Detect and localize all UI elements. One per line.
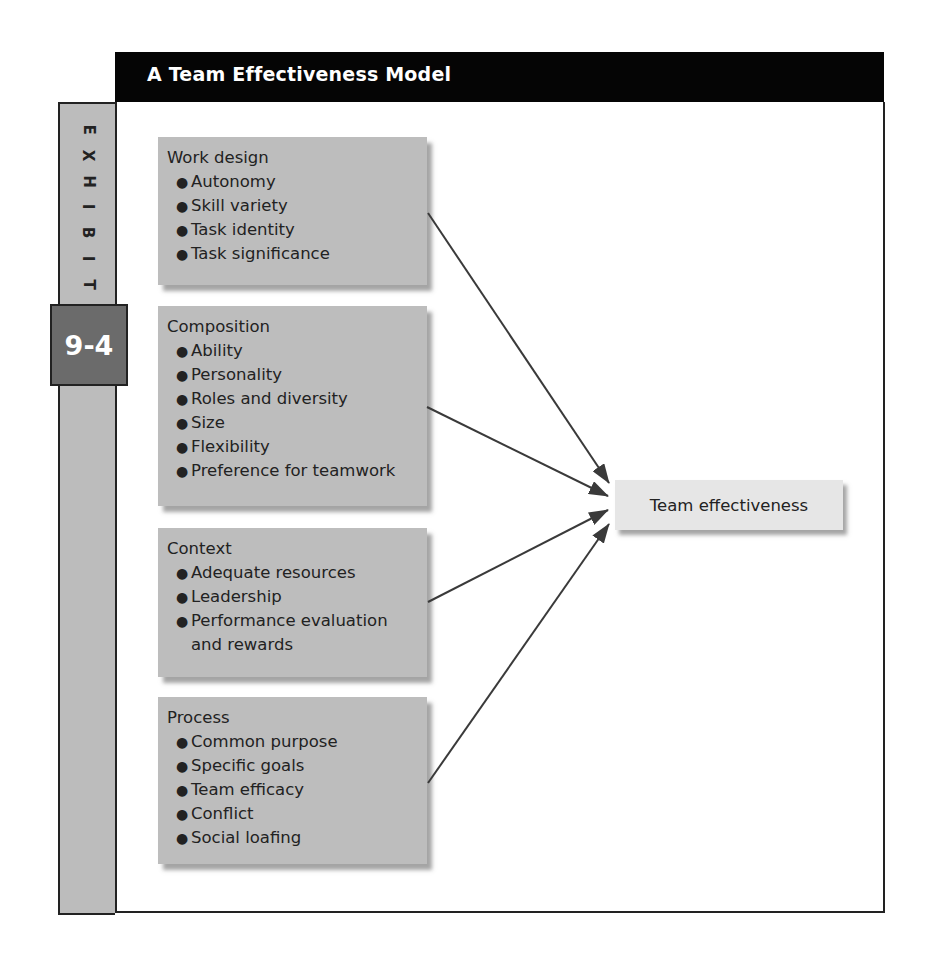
factor-item: ●Adequate resources (167, 561, 417, 585)
bullet-icon: ● (176, 170, 188, 194)
exhibit-letter: X (80, 150, 95, 162)
factor-list: ●Common purpose ●Specific goals ●Team ef… (167, 730, 417, 850)
factor-item: ●Team efficacy (167, 778, 417, 802)
outcome-box-team-effectiveness: Team effectiveness (615, 480, 843, 530)
factor-item: ●Personality (167, 363, 417, 387)
exhibit-letter: B (81, 227, 96, 238)
bullet-icon: ● (176, 609, 188, 633)
bullet-icon: ● (176, 778, 188, 802)
factor-item: ●Skill variety (167, 194, 417, 218)
bullet-icon: ● (176, 411, 188, 435)
factor-box-work-design: Work design ●Autonomy ●Skill variety ●Ta… (158, 137, 427, 285)
factor-item: ●Ability (167, 339, 417, 363)
factor-item: ●Preference for teamwork (167, 459, 417, 483)
exhibit-side-strip: E X H I B I T (58, 102, 115, 915)
bullet-icon: ● (176, 194, 188, 218)
bullet-icon: ● (176, 561, 188, 585)
bullet-icon: ● (176, 242, 188, 266)
bullet-icon: ● (176, 339, 188, 363)
exhibit-letter: H (81, 175, 96, 188)
bullet-icon: ● (176, 730, 188, 754)
factor-item: ●Autonomy (167, 170, 417, 194)
factor-item: ●Flexibility (167, 435, 417, 459)
factor-box-process: Process ●Common purpose ●Specific goals … (158, 697, 427, 864)
exhibit-number: 9-4 (65, 330, 114, 361)
factor-item: ●Conflict (167, 802, 417, 826)
exhibit-letter: T (80, 279, 95, 289)
bullet-icon: ● (176, 802, 188, 826)
factor-item: ●Task significance (167, 242, 417, 266)
factor-list: ●Autonomy ●Skill variety ●Task identity … (167, 170, 417, 266)
header-bar: A Team Effectiveness Model (115, 52, 884, 102)
factor-item: ●Roles and diversity (167, 387, 417, 411)
factor-item: ●Performance evaluation and rewards (167, 609, 417, 657)
factor-item: ●Leadership (167, 585, 417, 609)
factor-title: Process (167, 706, 417, 730)
bullet-icon: ● (176, 435, 188, 459)
bullet-icon: ● (176, 218, 188, 242)
factor-box-context: Context ●Adequate resources ●Leadership … (158, 528, 427, 677)
exhibit-letter: I (81, 256, 96, 262)
factor-item: ●Size (167, 411, 417, 435)
factor-item: ●Specific goals (167, 754, 417, 778)
bullet-icon: ● (176, 826, 188, 850)
bullet-icon: ● (176, 363, 188, 387)
factor-item: ●Task identity (167, 218, 417, 242)
exhibit-label: E X H I B I T (74, 122, 102, 292)
factor-item: ●Social loafing (167, 826, 417, 850)
factor-title: Work design (167, 146, 417, 170)
outcome-label: Team effectiveness (650, 496, 808, 515)
bullet-icon: ● (176, 387, 188, 411)
exhibit-number-badge: 9-4 (50, 304, 128, 386)
factor-item: ●Common purpose (167, 730, 417, 754)
factor-title: Composition (167, 315, 417, 339)
exhibit-letter: I (81, 204, 96, 210)
factor-title: Context (167, 537, 417, 561)
bullet-icon: ● (176, 585, 188, 609)
factor-list: ●Adequate resources ●Leadership ●Perform… (167, 561, 417, 657)
factor-box-composition: Composition ●Ability ●Personality ●Roles… (158, 306, 427, 506)
bullet-icon: ● (176, 754, 188, 778)
bullet-icon: ● (176, 459, 188, 483)
factor-list: ●Ability ●Personality ●Roles and diversi… (167, 339, 417, 483)
exhibit-letter: E (81, 124, 96, 134)
diagram-title: A Team Effectiveness Model (147, 63, 451, 85)
